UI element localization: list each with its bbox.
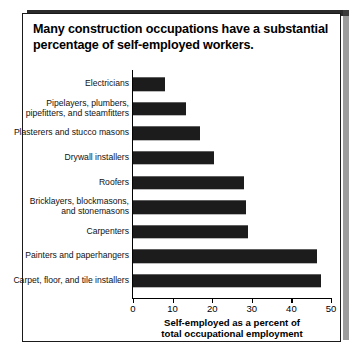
frame-shadow-right	[343, 10, 349, 340]
chart-frame: Many construction occupations have a sub…	[22, 13, 341, 342]
category-label: Carpet, floor, and tile installers	[0, 276, 129, 286]
x-axis-line	[132, 298, 331, 299]
plot-area: 01020304050ElectriciansPipelayers, plumb…	[23, 14, 342, 343]
bar	[133, 78, 165, 91]
category-label-line: Plasterers and stucco masons	[14, 128, 129, 138]
bar-row: Roofers	[23, 170, 342, 195]
x-axis-tick-label: 10	[160, 303, 186, 314]
bar-row: Electricians	[23, 72, 342, 97]
bar-row: Carpet, floor, and tile installers	[23, 269, 342, 294]
bar	[133, 102, 186, 115]
category-label: Electricians	[0, 79, 129, 89]
category-label: Roofers	[0, 178, 129, 188]
bar	[133, 225, 248, 238]
category-label-line: Pipelayers, plumbers,	[46, 98, 129, 108]
category-label: Pipelayers, plumbers,pipefitters, and st…	[0, 99, 129, 119]
category-label-line: and stonemasons	[61, 206, 129, 216]
category-label: Painters and paperhangers	[0, 252, 129, 262]
x-axis-tick-label: 30	[239, 303, 265, 314]
category-label-line: Roofers	[99, 177, 129, 187]
chart-figure: Many construction occupations have a sub…	[0, 0, 359, 364]
x-axis-tick-label: 40	[278, 303, 304, 314]
x-axis-tick-label: 50	[318, 303, 344, 314]
bar-row: Pipelayers, plumbers,pipefitters, and st…	[23, 97, 342, 122]
bar	[133, 151, 214, 164]
x-axis-tick-label: 0	[120, 303, 146, 314]
bar-row: Plasterers and stucco masons	[23, 121, 342, 146]
category-label: Bricklayers, blockmasons,and stonemasons	[0, 198, 129, 218]
category-label-line: Carpenters	[86, 226, 129, 236]
category-label: Plasterers and stucco masons	[0, 129, 129, 139]
category-label-line: Bricklayers, blockmasons,	[30, 197, 129, 207]
category-label-line: pipefitters, and steamfitters	[26, 108, 129, 118]
category-label-line: Painters and paperhangers	[25, 251, 129, 261]
bar	[133, 274, 321, 287]
bar	[133, 250, 317, 263]
x-axis-label: Self-employed as a percent of total occu…	[132, 317, 332, 340]
x-axis-tick-label: 20	[199, 303, 225, 314]
category-label-line: Carpet, floor, and tile installers	[13, 275, 129, 285]
bar-row: Drywall installers	[23, 146, 342, 171]
bar	[133, 127, 200, 140]
category-label: Carpenters	[0, 227, 129, 237]
bar	[133, 201, 246, 214]
x-axis-label-line-2: total occupational employment	[161, 328, 302, 339]
category-label-line: Drywall installers	[65, 152, 129, 162]
bar	[133, 176, 244, 189]
x-axis-label-line-1: Self-employed as a percent of	[164, 317, 300, 328]
category-label-line: Electricians	[85, 78, 129, 88]
category-label: Drywall installers	[0, 153, 129, 163]
bar-row: Painters and paperhangers	[23, 244, 342, 269]
bar-row: Carpenters	[23, 220, 342, 245]
bar-row: Bricklayers, blockmasons,and stonemasons	[23, 195, 342, 220]
